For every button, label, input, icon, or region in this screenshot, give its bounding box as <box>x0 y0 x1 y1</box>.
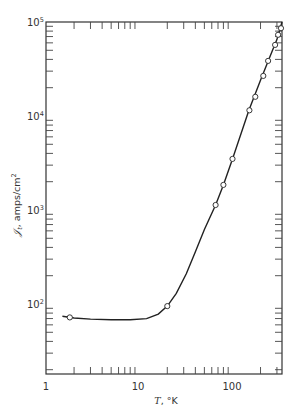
data-point-marker <box>276 32 281 37</box>
data-point-marker <box>67 315 72 320</box>
data-point-marker <box>273 42 278 47</box>
y-tick-label-1e5: 105 <box>27 16 44 28</box>
data-point-marker <box>278 26 283 31</box>
fitted-curve <box>62 22 282 320</box>
data-point-marker <box>165 304 170 309</box>
data-point-marker <box>221 182 226 187</box>
data-point-marker <box>213 202 218 207</box>
x-tick-label-100: 100 <box>222 381 241 392</box>
x-axis-unit: , °K <box>161 395 179 406</box>
data-point-marker <box>230 156 235 161</box>
data-point-marker <box>266 58 271 63</box>
y-tick-label-1e4: 104 <box>27 110 44 122</box>
data-point-marker <box>261 73 266 78</box>
x-axis-title: T, °K <box>154 395 178 406</box>
chart: 1 10 100 T, °K 105 104 103 102 𝒥t, amps/… <box>0 0 297 411</box>
plot-frame <box>46 22 282 374</box>
x-tick-label-10: 10 <box>132 381 145 392</box>
data-point-marker <box>247 108 252 113</box>
y-tick-label-1e3: 103 <box>27 204 44 216</box>
axis-ticks <box>46 22 282 374</box>
x-tick-label-1: 1 <box>43 381 49 392</box>
data-points <box>67 26 283 320</box>
data-point-marker <box>253 94 258 99</box>
y-axis-title: 𝒥t, amps/cm2 <box>10 173 24 237</box>
y-tick-label-1e2: 102 <box>27 298 44 310</box>
